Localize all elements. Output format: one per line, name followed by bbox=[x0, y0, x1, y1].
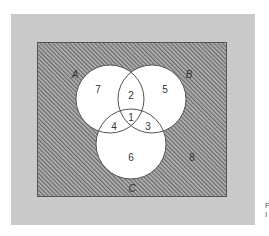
caption-line-1: F bbox=[265, 202, 269, 210]
region-bc-only: 3 bbox=[145, 121, 151, 132]
set-c-label: C bbox=[128, 183, 136, 194]
region-c-only: 6 bbox=[128, 152, 134, 163]
region-abc: 1 bbox=[128, 112, 134, 123]
set-a-label: A bbox=[71, 69, 79, 80]
region-ab-only: 2 bbox=[128, 90, 134, 101]
venn-diagram: A B C 7 2 5 1 4 3 6 8 bbox=[0, 0, 269, 236]
region-outside: 8 bbox=[189, 152, 195, 163]
region-ac-only: 4 bbox=[111, 121, 117, 132]
region-b-only: 5 bbox=[162, 84, 168, 95]
caption-line-2: I bbox=[265, 211, 267, 219]
region-a-only: 7 bbox=[95, 84, 101, 95]
set-b-label: B bbox=[186, 69, 193, 80]
